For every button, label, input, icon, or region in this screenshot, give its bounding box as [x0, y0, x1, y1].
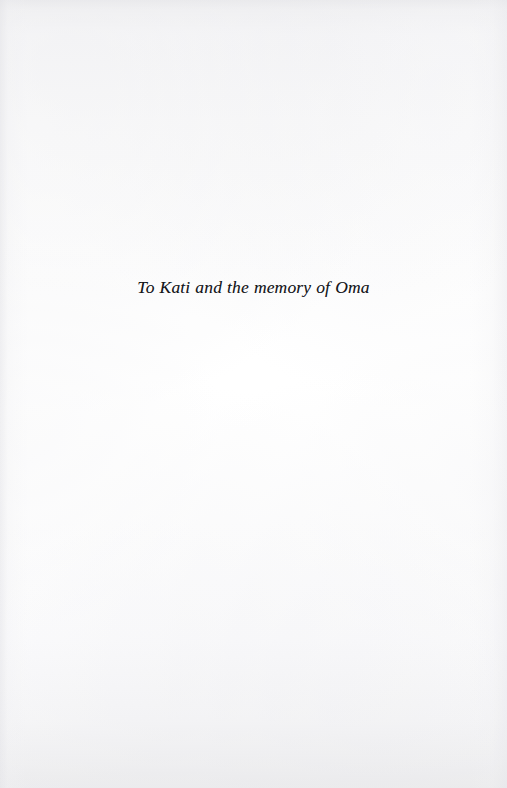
page-content: To Kati and the memory of Oma: [0, 0, 507, 788]
dedication-block: To Kati and the memory of Oma: [0, 0, 507, 297]
dedication-text: To Kati and the memory of Oma: [137, 277, 369, 297]
dedication-page: To Kati and the memory of Oma: [0, 0, 507, 788]
